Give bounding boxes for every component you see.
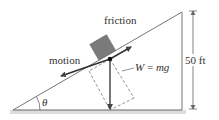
angle-label: θ [42, 96, 48, 108]
weight-label: W = mg [135, 61, 170, 73]
block [89, 34, 116, 60]
motion-label: motion [49, 54, 81, 66]
height-label: 50 ft [185, 54, 205, 66]
ground [10, 110, 186, 114]
weight-components-dashed [89, 59, 134, 110]
friction-label: friction [104, 14, 137, 26]
incline-diagram: θ friction motion W = mg 50 ft [0, 0, 219, 120]
weight-leader-line [122, 68, 134, 71]
weight-label-mg: mg [156, 61, 170, 73]
angle-arc [37, 97, 41, 111]
center-of-mass-dot [108, 57, 113, 62]
weight-label-eq: = [144, 61, 156, 73]
